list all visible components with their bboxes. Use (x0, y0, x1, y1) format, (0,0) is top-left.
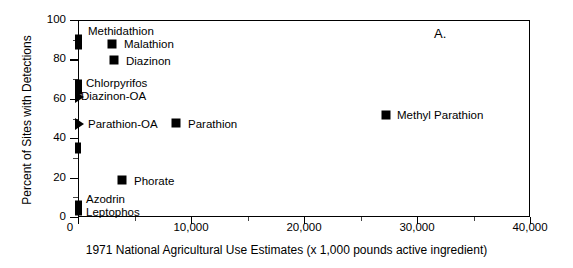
data-point-parathion-oa[interactable] (75, 118, 84, 130)
x-tick-label-40000: 40,000 (512, 221, 547, 233)
y-tick-minor-10 (73, 197, 78, 198)
data-point-methidathion[interactable] (75, 35, 82, 50)
scatter-plot-figure: Percent of Sites with Detections 0 20 40… (0, 0, 573, 268)
label-methyl-parathion: Methyl Parathion (397, 109, 483, 122)
y-tick-label-20: 20 (34, 171, 66, 183)
label-parathion: Parathion (188, 118, 237, 131)
data-point-phorate[interactable] (118, 176, 127, 185)
x-tick-0 (78, 217, 79, 224)
label-malathion: Malathion (124, 38, 174, 51)
y-tick-0 (70, 217, 78, 218)
panel-letter-a: A. (434, 26, 446, 41)
y-tick-label-80: 80 (34, 52, 66, 64)
y-tick-minor-30 (73, 158, 78, 159)
x-tick-label-30000: 30,000 (399, 221, 434, 233)
y-axis-title: Percent of Sites with Detections (20, 5, 34, 235)
x-axis-title: 1971 National Agricultural Use Estimates… (0, 243, 573, 257)
x-tick-label-0: 0 (67, 221, 73, 233)
x-tick-minor-35000 (474, 217, 475, 221)
y-tick-label-40: 40 (34, 131, 66, 143)
y-tick-40 (70, 138, 78, 139)
y-tick-label-60: 60 (34, 92, 66, 104)
data-point-malathion[interactable] (108, 40, 117, 49)
label-parathion-oa: Parathion-OA (88, 118, 158, 131)
label-diazinon: Diazinon (126, 55, 171, 68)
label-phorate: Phorate (134, 175, 174, 188)
y-tick-20 (70, 178, 78, 179)
label-diazinon-oa: Diazinon-OA (81, 90, 146, 103)
label-methidathion: Methidathion (88, 25, 154, 38)
data-point-axis-36[interactable] (75, 143, 81, 154)
label-azodrin: Azodrin (86, 193, 125, 206)
label-leptophos: Leptophos (86, 206, 140, 219)
data-point-diazinon[interactable] (110, 56, 119, 65)
y-tick-label-100: 100 (34, 13, 66, 25)
y-tick-100 (70, 20, 78, 21)
y-tick-label-0: 0 (34, 210, 66, 222)
data-point-azodrin-leptophos[interactable] (75, 201, 82, 216)
data-point-parathion[interactable] (172, 119, 181, 128)
x-tick-minor-15000 (248, 217, 249, 221)
label-chlorpyrifos: Chlorpyrifos (86, 77, 147, 90)
data-point-methyl-parathion[interactable] (382, 111, 391, 120)
y-tick-80 (70, 59, 78, 60)
x-tick-label-20000: 20,000 (286, 221, 321, 233)
x-tick-minor-25000 (361, 217, 362, 221)
x-tick-label-10000: 10,000 (173, 221, 208, 233)
